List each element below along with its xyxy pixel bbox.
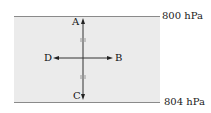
arrow-right-icon bbox=[107, 56, 113, 60]
point-label-c: C bbox=[73, 91, 81, 101]
point-label-b: B bbox=[115, 53, 122, 63]
arrow-up-icon bbox=[81, 18, 85, 24]
point-label-a: A bbox=[72, 17, 79, 27]
arrow-left-icon bbox=[53, 56, 59, 60]
arrow-down-icon bbox=[81, 94, 85, 100]
arrow-diagram bbox=[0, 0, 211, 113]
point-label-d: D bbox=[44, 53, 52, 63]
